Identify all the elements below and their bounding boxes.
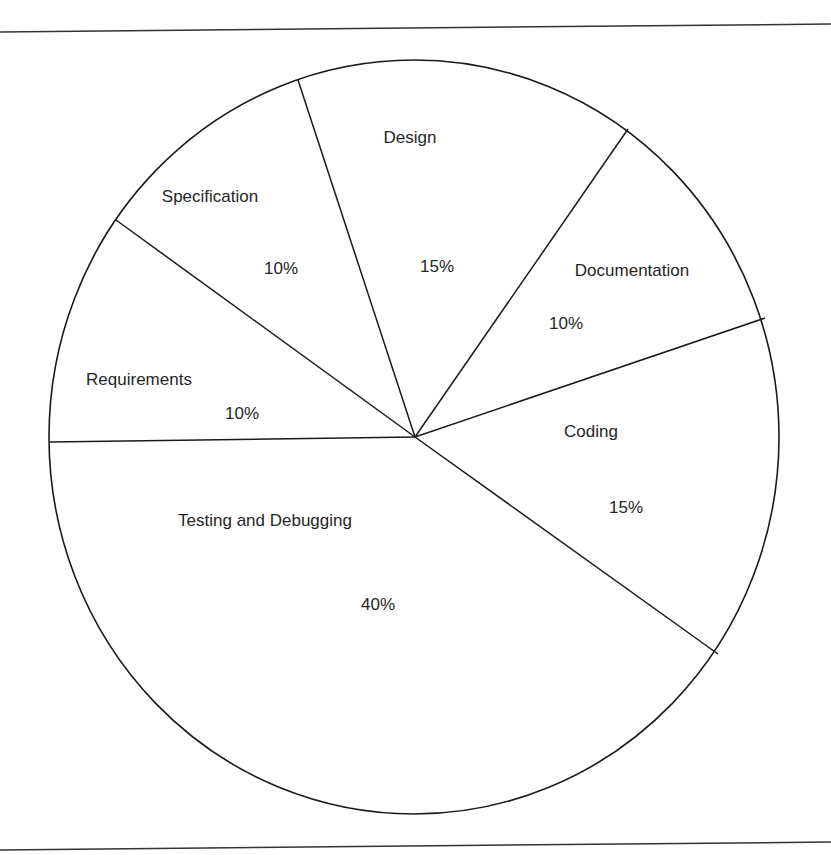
slice-pct-documentation: 10% bbox=[549, 314, 583, 334]
slice-label-specification: Specification bbox=[162, 187, 258, 207]
slice-label-testing: Testing and Debugging bbox=[178, 511, 352, 531]
slice-pct-specification: 10% bbox=[264, 259, 298, 279]
bottom-rule bbox=[0, 842, 831, 850]
slice-pct-testing: 40% bbox=[361, 595, 395, 615]
slice-label-requirements: Requirements bbox=[86, 370, 192, 390]
slice-label-design: Design bbox=[384, 128, 437, 148]
top-rule bbox=[0, 24, 831, 32]
slice-label-documentation: Documentation bbox=[575, 261, 689, 281]
slice-label-coding: Coding bbox=[564, 422, 618, 442]
slice-pct-design: 15% bbox=[420, 257, 454, 277]
slice-pct-requirements: 10% bbox=[225, 404, 259, 424]
slice-pct-coding: 15% bbox=[609, 498, 643, 518]
